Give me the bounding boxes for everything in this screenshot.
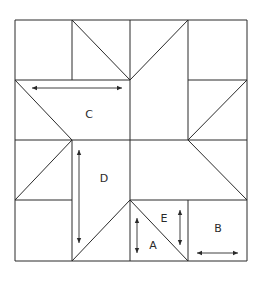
label-c: C <box>85 108 93 121</box>
label-e: E <box>161 212 168 225</box>
label-b: B <box>214 222 222 235</box>
label-a: A <box>149 239 157 252</box>
label-d: D <box>100 172 108 185</box>
quilt-block-diagram: CDEAB <box>0 0 261 281</box>
